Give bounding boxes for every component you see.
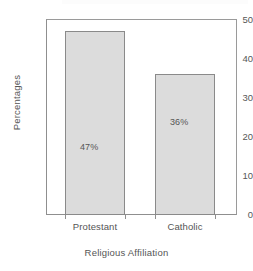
bar-catholic <box>155 74 215 215</box>
page-text-sliver <box>62 0 248 4</box>
x-tick-label-catholic: Catholic <box>145 221 225 232</box>
x-axis-title: Religious Affiliation <box>0 247 253 258</box>
x-tick-label-protestant: Protestant <box>55 221 135 232</box>
y-axis-title: Percentages <box>11 51 22 155</box>
bar-value-catholic: 36% <box>170 117 188 127</box>
bar-chart-figure: Percentages 50 40 30 20 10 0 47% 36% Pro… <box>0 0 253 271</box>
x-tick-mark-right <box>215 215 216 219</box>
bar-protestant <box>65 31 125 215</box>
x-tick-mark-left <box>65 215 66 219</box>
x-tick-mark-middle-left <box>125 215 126 219</box>
x-tick-mark-middle-right <box>155 215 156 219</box>
bar-value-protestant: 47% <box>80 142 98 152</box>
